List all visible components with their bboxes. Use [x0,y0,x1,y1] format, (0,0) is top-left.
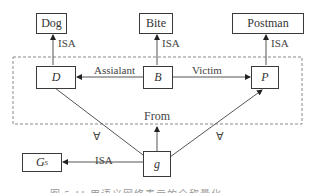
edge-label-isa-gs: ISA [95,154,113,166]
edge-label-assialant: Assialant [94,64,135,76]
forall-symbol-left: ∀ [93,130,101,143]
node-dog: Dog [36,13,67,34]
node-bite: Bite [139,13,173,34]
node-gs: GS [22,153,62,172]
edge-label-victim: Victim [192,64,222,76]
edge-label-from: From [144,109,170,124]
node-gs-label: G [36,155,45,170]
node-d-label: D [52,70,61,85]
node-dog-label: Dog [41,16,62,31]
node-g-label: g [154,157,160,172]
forall-symbol-right: ∀ [216,130,224,143]
node-p-label: P [261,70,268,85]
node-bite-label: Bite [146,16,166,31]
node-g: g [143,151,171,177]
node-d: D [36,66,76,89]
node-postman: Postman [232,13,304,34]
node-gs-subscript: S [45,159,49,167]
node-b-label: B [154,70,161,85]
node-b: B [143,66,173,89]
edge-label-isa-dog: ISA [58,37,76,49]
node-p: P [251,66,279,89]
edge-label-isa-postman: ISA [271,37,289,49]
node-postman-label: Postman [247,16,288,31]
figure-caption: 图 5-11 用语义网络表示的全称量化 [50,186,270,193]
edge-label-isa-bite: ISA [162,37,180,49]
